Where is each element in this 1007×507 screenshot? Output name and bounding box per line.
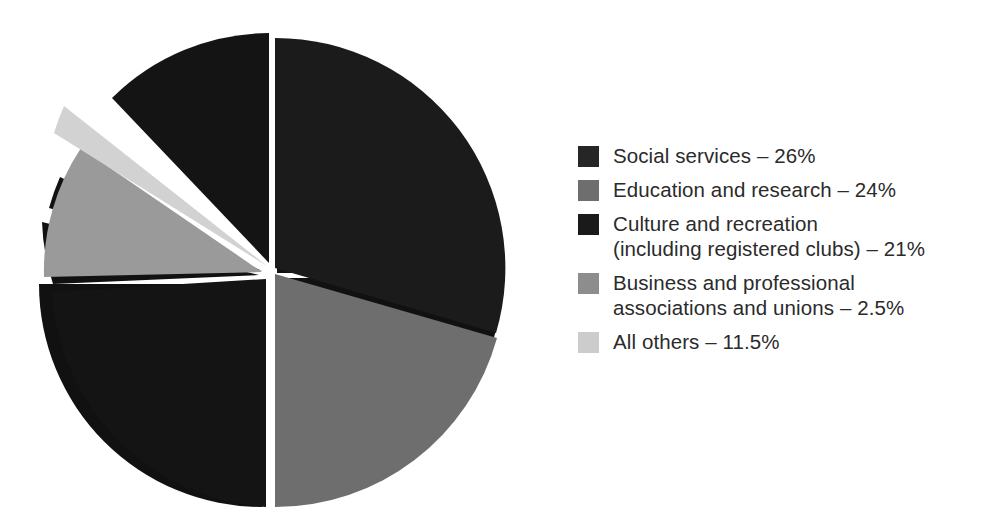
pie-chart-svg [0,0,560,507]
legend-swatch-education-research [578,180,599,201]
legend-swatch-business-professional [578,273,599,294]
pie-chart-figure: Social services – 26% Education and rese… [0,0,1007,507]
chart-legend: Social services – 26% Education and rese… [578,143,998,363]
legend-label-business-professional: Business and professional associations a… [613,270,904,320]
legend-swatch-culture-recreation [578,214,599,235]
legend-swatch-social-services [578,146,599,167]
legend-item-all-others[interactable]: All others – 11.5% [578,329,998,354]
legend-label-education-research: Education and research – 24% [613,177,896,202]
legend-item-education-research[interactable]: Education and research – 24% [578,177,998,202]
legend-label-culture-recreation: Culture and recreation (including regist… [613,211,925,261]
legend-item-business-professional[interactable]: Business and professional associations a… [578,270,998,320]
pie-slice-culture-recreation[interactable] [52,279,266,507]
legend-label-social-services: Social services – 26% [613,143,816,168]
legend-label-all-others: All others – 11.5% [613,329,780,354]
pie-chart-plot-area [0,0,560,507]
legend-swatch-all-others [578,332,599,353]
legend-item-culture-recreation[interactable]: Culture and recreation (including regist… [578,211,998,261]
legend-item-social-services[interactable]: Social services – 26% [578,143,998,168]
